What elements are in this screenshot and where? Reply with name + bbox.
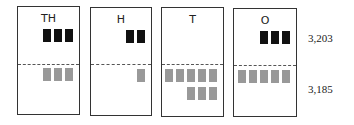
bottom-block [249, 70, 257, 83]
bottom-value-label: 3,185 [308, 83, 333, 95]
bottom-block [54, 68, 62, 81]
panel-thousands: TH [17, 6, 80, 115]
bottom-block [282, 70, 290, 83]
panel-label: T [162, 13, 223, 26]
bottom-block [209, 69, 217, 82]
top-block [126, 30, 134, 43]
bottom-block [209, 87, 217, 100]
bottom-block [176, 69, 184, 82]
bottom-block [187, 87, 195, 100]
panel-label: TH [18, 12, 79, 25]
bottom-block [198, 69, 206, 82]
top-block [54, 29, 62, 42]
panel-tens: T [161, 7, 224, 117]
bottom-block [187, 69, 195, 82]
divider-line [234, 65, 296, 66]
bottom-block [43, 68, 51, 81]
bottom-block [238, 70, 246, 83]
bottom-block [137, 69, 145, 82]
panel-label: H [91, 13, 151, 26]
divider-line [18, 64, 79, 65]
panel-label: O [234, 14, 296, 27]
top-block [137, 30, 145, 43]
top-block [271, 31, 279, 44]
divider-line [91, 64, 151, 65]
bottom-block [165, 69, 173, 82]
bottom-block [65, 68, 73, 81]
bottom-block [271, 70, 279, 83]
divider-line [162, 64, 223, 65]
top-value-label: 3,203 [308, 32, 333, 44]
panel-hundreds: H [90, 7, 152, 116]
bottom-block [260, 70, 268, 83]
top-block [43, 29, 51, 42]
top-block [282, 31, 290, 44]
top-block [260, 31, 268, 44]
bottom-block [198, 87, 206, 100]
top-block [65, 29, 73, 42]
panel-ones: O [233, 8, 297, 117]
